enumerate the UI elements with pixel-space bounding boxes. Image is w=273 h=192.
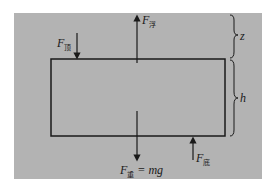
height-label: h: [240, 92, 246, 104]
depth-brace: [230, 15, 238, 58]
depth-label: z: [240, 30, 245, 42]
height-brace: [230, 60, 238, 136]
weight-label: F重 = mg: [120, 164, 163, 181]
bottom-pressure-label: F底: [196, 152, 210, 169]
buoyancy-label: F浮: [142, 14, 156, 31]
top-pressure-label: F顶: [57, 37, 71, 54]
submerged-block: [51, 59, 225, 136]
